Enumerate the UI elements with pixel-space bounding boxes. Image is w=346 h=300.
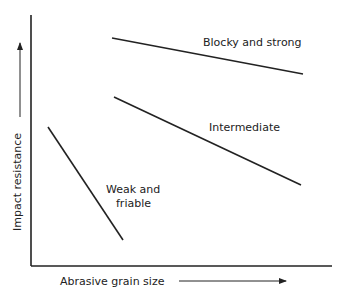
blocky-strong-label: Blocky and strong [203,36,302,49]
impact-resistance-diagram: Impact resistance Abrasive grain size Bl… [0,0,346,300]
y-axis-label: Impact resistance [11,133,24,231]
weak-friable-label-line1: Weak and [106,183,160,196]
intermediate-label: Intermediate [209,121,280,134]
x-axis-label: Abrasive grain size [60,275,165,288]
intermediate-line [114,97,301,185]
weak-friable-label-line2: friable [116,197,151,210]
